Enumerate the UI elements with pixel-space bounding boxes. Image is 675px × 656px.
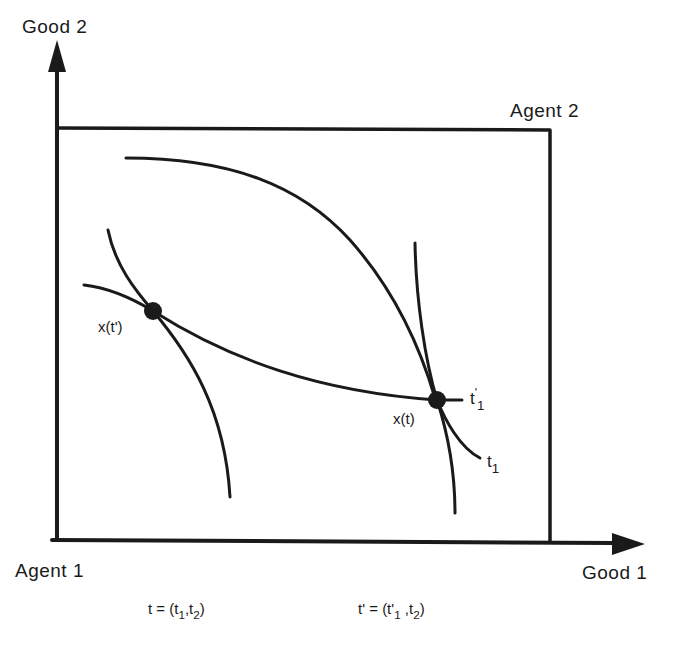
good2-arrow-icon bbox=[48, 40, 66, 72]
agent2-box-edges bbox=[57, 128, 550, 542]
good1-arrow-icon bbox=[612, 533, 645, 555]
good2-axis-label: Good 2 bbox=[22, 16, 87, 38]
good1-axis-label: Good 1 bbox=[582, 562, 647, 584]
curve-label-t1: t1 bbox=[487, 452, 499, 476]
edgeworth-box-diagram: Good 2 Good 1 Agent 2 Agent 1 x(t') x(t)… bbox=[0, 0, 675, 656]
point-x-t-prime-label: x(t') bbox=[98, 318, 123, 335]
right-indifference-curve bbox=[415, 243, 455, 513]
tp-def-prefix: t' = (t' bbox=[358, 600, 394, 617]
point-x-t bbox=[428, 391, 446, 409]
definition-t: t = (t1,t2) bbox=[148, 600, 205, 621]
tp-def-mid: ,t bbox=[401, 600, 414, 617]
t1-prime-subscript: 1 bbox=[477, 398, 484, 413]
t-def-prefix: t = (t bbox=[148, 600, 178, 617]
point-x-t-prime bbox=[144, 302, 162, 320]
t1-subscript: 1 bbox=[492, 461, 499, 476]
t-def-suffix: ) bbox=[200, 600, 205, 617]
point-x-t-label: x(t) bbox=[393, 410, 415, 427]
tp-def-suffix: ) bbox=[420, 600, 425, 617]
top-arc-curve bbox=[126, 158, 435, 398]
definition-t-prime: t' = (t'1 ,t2) bbox=[358, 600, 425, 621]
agent1-origin-label: Agent 1 bbox=[15, 560, 84, 582]
agent2-origin-label: Agent 2 bbox=[510, 100, 579, 122]
budget-line-t-prime-curve bbox=[84, 285, 462, 400]
good1-axis bbox=[52, 540, 615, 543]
curve-label-t1-prime: t'1 bbox=[470, 386, 484, 413]
left-indifference-curve bbox=[108, 230, 230, 497]
